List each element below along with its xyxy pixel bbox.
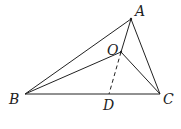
label-c: C: [163, 91, 174, 107]
segment-oc: [121, 52, 160, 94]
point-o: [120, 51, 122, 53]
segment-ac: [131, 19, 160, 94]
label-d: D: [102, 97, 114, 113]
diagram-canvas: A O B D C: [0, 0, 181, 129]
label-o: O: [107, 42, 119, 58]
point-a: [130, 18, 132, 20]
segment-bo: [25, 52, 121, 94]
label-a: A: [133, 3, 145, 19]
segment-ao: [121, 19, 131, 52]
geometry-diagram: A O B D C: [0, 0, 181, 129]
label-b: B: [8, 91, 19, 107]
segment-od-dashed: [109, 52, 121, 94]
